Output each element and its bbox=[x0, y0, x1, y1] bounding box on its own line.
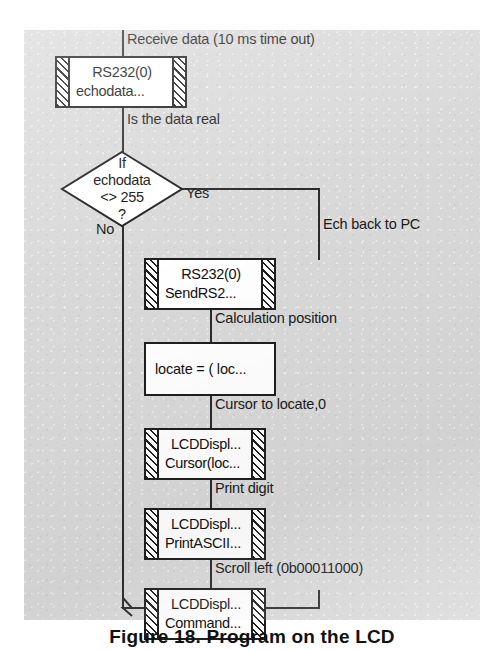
hatch-bar-right bbox=[261, 260, 274, 308]
node-line-2: PrintASCII... bbox=[165, 534, 251, 553]
flowchart-canvas: Receive data (10 ms time out) Is the dat… bbox=[24, 30, 480, 620]
figure-caption: Figure 18. Program on the LCD bbox=[0, 624, 504, 650]
hatch-bar-right bbox=[251, 430, 264, 478]
node-line-1: RS232(0) bbox=[165, 265, 261, 284]
node-line-2: echodata... bbox=[76, 82, 172, 101]
edge-cursor-to-print bbox=[210, 478, 212, 510]
figure-caption-text: Figure 18. Program on the LCD bbox=[0, 624, 504, 650]
label-is-data-real: Is the data real bbox=[127, 112, 220, 127]
hatch-bar-left bbox=[146, 260, 159, 308]
hatch-bar-right bbox=[251, 510, 264, 558]
node-text: LCDDispl... PrintASCII... bbox=[159, 510, 251, 558]
edge-box1-to-decision bbox=[122, 106, 124, 152]
node-line-1: LCDDispl... bbox=[165, 595, 251, 614]
label-print-digit: Print digit bbox=[215, 481, 273, 496]
edge-entry bbox=[122, 30, 124, 58]
node-lcd-printascii[interactable]: LCDDispl... PrintASCII... bbox=[144, 508, 266, 560]
node-line-1: locate = ( loc... bbox=[146, 360, 274, 378]
edge-print-to-command bbox=[210, 558, 212, 590]
node-decision-echodata[interactable]: If echodata <> 255 ? bbox=[60, 150, 184, 228]
label-calculation-position: Calculation position bbox=[215, 311, 337, 326]
node-text: LCDDispl... Cursor(loc... bbox=[159, 430, 251, 478]
figure-page: Receive data (10 ms time out) Is the dat… bbox=[0, 0, 504, 650]
hatch-bar-right bbox=[172, 58, 185, 106]
node-rs232-echodata[interactable]: RS232(0) echodata... bbox=[55, 56, 187, 108]
node-line-2: SendRS2... bbox=[165, 284, 261, 303]
node-text: RS232(0) SendRS2... bbox=[159, 260, 261, 308]
node-lcd-cursor[interactable]: LCDDispl... Cursor(loc... bbox=[144, 428, 266, 480]
hatch-bar-left bbox=[57, 58, 70, 106]
edge-yes-vertical bbox=[318, 188, 320, 260]
node-line-1: LCDDispl... bbox=[165, 435, 251, 454]
hatch-bar-left bbox=[146, 430, 159, 478]
return-arrowhead bbox=[116, 596, 134, 618]
node-line-2: Cursor(loc... bbox=[165, 454, 251, 473]
flowchart-graph: Receive data (10 ms time out) Is the dat… bbox=[24, 30, 480, 620]
edge-send-to-locate bbox=[210, 308, 212, 344]
node-line-1: RS232(0) bbox=[76, 63, 172, 82]
node-rs232-sendrs2[interactable]: RS232(0) SendRS2... bbox=[144, 258, 276, 310]
label-echo-back-to-pc: Ech back to PC bbox=[323, 217, 420, 232]
label-scroll-left: Scroll left (0b00011000) bbox=[215, 561, 363, 576]
edge-no-vertical bbox=[122, 226, 124, 609]
node-locate-calculation[interactable]: locate = ( loc... bbox=[144, 342, 276, 396]
label-cursor-to-locate: Cursor to locate,0 bbox=[215, 397, 326, 412]
node-line-1: LCDDispl... bbox=[165, 515, 251, 534]
label-yes: Yes bbox=[186, 186, 209, 201]
node-text: RS232(0) echodata... bbox=[70, 58, 172, 106]
edge-locate-to-cursor bbox=[210, 394, 212, 430]
hatch-bar-left bbox=[146, 510, 159, 558]
label-receive-data: Receive data (10 ms time out) bbox=[127, 32, 315, 47]
